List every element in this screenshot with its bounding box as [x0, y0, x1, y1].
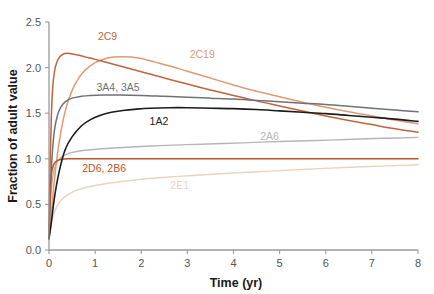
x-tick-label: 0: [46, 257, 52, 269]
y-tick-label: 1.5: [26, 107, 41, 119]
chart-canvas: 0.00.51.01.52.02.5012345678 2C92C193A4, …: [0, 0, 434, 294]
x-tick-label: 4: [230, 257, 236, 269]
y-tick-label: 0.5: [26, 198, 41, 210]
y-tick-label: 2.0: [26, 62, 41, 74]
series-label-2e1: 2E1: [170, 179, 189, 191]
x-tick-label: 8: [415, 257, 421, 269]
x-tick-label: 1: [92, 257, 98, 269]
x-axis-title: Time (yr): [210, 276, 263, 290]
series-label-2c19: 2C19: [190, 48, 215, 60]
series-label-2c9: 2C9: [98, 30, 117, 42]
series-label-3a4-3a5: 3A4, 3A5: [97, 81, 140, 93]
chart-figure: 0.00.51.01.52.02.5012345678 2C92C193A4, …: [0, 0, 434, 294]
series-label-2a6: 2A6: [260, 130, 279, 142]
y-axis-title: Fraction of adult value: [6, 69, 20, 202]
y-tick-label: 2.5: [26, 16, 41, 28]
y-tick-label: 0.0: [26, 244, 41, 256]
x-tick-label: 2: [138, 257, 144, 269]
x-tick-label: 5: [277, 257, 283, 269]
x-tick-label: 7: [369, 257, 375, 269]
y-tick-label: 1.0: [26, 153, 41, 165]
series-label-2d6-2b6: 2D6, 2B6: [82, 162, 126, 174]
series-label-1a2: 1A2: [150, 115, 169, 127]
x-tick-label: 6: [323, 257, 329, 269]
x-tick-label: 3: [184, 257, 190, 269]
